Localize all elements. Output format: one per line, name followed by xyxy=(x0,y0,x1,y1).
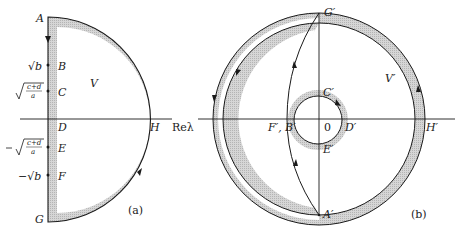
point-c-dot xyxy=(47,90,50,93)
svg-text:c+d: c+d xyxy=(27,83,42,91)
caption-b: (b) xyxy=(411,208,427,221)
label-h: H xyxy=(149,121,160,134)
axis-re-lambda-label: Reλ xyxy=(172,121,194,134)
label-d-prime: D′ xyxy=(344,121,357,134)
panel-a-shaded-band xyxy=(48,17,150,222)
label-origin: 0 xyxy=(324,121,331,134)
conformal-map-diagram: A B C D E F G H V Reλ (a) √b c+d a c+d a… xyxy=(0,0,460,235)
label-e-prime: E′ xyxy=(322,143,334,156)
point-b-dot xyxy=(47,64,50,67)
panel-a: A B C D E F G H V Reλ (a) √b c+d a c+d a… xyxy=(6,12,194,226)
label-f: F xyxy=(57,170,66,183)
label-c-prime: C′ xyxy=(323,86,334,99)
region-v-prime-label: V′ xyxy=(385,72,396,85)
label-g-prime: G′ xyxy=(324,6,336,19)
point-f-dot xyxy=(47,174,50,177)
label-g: G xyxy=(35,213,44,226)
label-h-prime: H′ xyxy=(425,121,439,134)
caption-a: (a) xyxy=(128,204,143,217)
point-a-prime-dot xyxy=(318,214,321,217)
tick-sqrt-b: √b xyxy=(28,60,42,73)
tick-neg-sqrt-b: −√b xyxy=(18,170,41,183)
label-a: A xyxy=(35,12,44,25)
region-v-label: V xyxy=(90,77,99,90)
label-d: D xyxy=(57,121,67,134)
svg-text:a: a xyxy=(31,92,35,100)
svg-text:a: a xyxy=(31,148,35,156)
label-f-b-prime: F′, B′ xyxy=(267,121,296,134)
point-e-dot xyxy=(47,146,50,149)
label-c: C xyxy=(58,86,67,99)
panel-b: G′ C′ 0 D′ E′ F′, B′ H′ A′ V′ (b) xyxy=(198,6,455,225)
label-b: B xyxy=(57,60,66,73)
label-e: E xyxy=(57,142,66,155)
tick-sqrt-cd-a: c+d a xyxy=(16,83,44,100)
panel-b-small-circle xyxy=(294,96,342,144)
panel-a-contour xyxy=(48,17,150,222)
label-a-prime: A′ xyxy=(322,208,334,221)
tick-neg-sqrt-cd-a: c+d a xyxy=(6,139,44,156)
svg-text:c+d: c+d xyxy=(27,139,42,147)
